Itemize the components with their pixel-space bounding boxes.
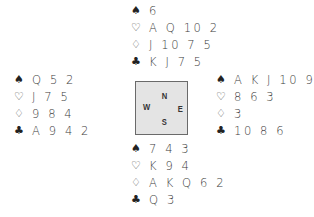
heart-outline-icon: ♡ — [216, 89, 230, 105]
west-hearts-cards: J 7 5 — [32, 89, 70, 105]
north-clubs-cards: K J 7 5 — [149, 54, 204, 70]
club-icon: ♣ — [14, 123, 28, 139]
west-clubs-cards: A 9 4 2 — [32, 123, 91, 139]
compass-west-label: W — [143, 101, 150, 112]
east-spades-cards: A K J 10 9 8 — [234, 72, 314, 88]
heart-outline-icon: ♡ — [14, 89, 28, 105]
spade-icon: ♠ — [14, 72, 28, 88]
heart-outline-icon: ♡ — [131, 20, 145, 36]
diamond-outline-icon: ♢ — [131, 175, 145, 191]
club-icon: ♣ — [216, 123, 230, 139]
north-diamonds-cards: J 10 7 5 — [149, 37, 213, 53]
spade-icon: ♠ — [131, 3, 145, 19]
compass-east-label: E — [178, 103, 183, 114]
diamond-outline-icon: ♢ — [216, 106, 230, 122]
south-hearts-cards: K 9 4 — [149, 158, 192, 174]
west-diamonds-cards: 9 8 4 — [32, 106, 74, 122]
compass-north-label: N — [162, 90, 168, 101]
spade-icon: ♠ — [216, 72, 230, 88]
south-diamonds-cards: A K Q 6 2 — [149, 175, 226, 191]
east-clubs-cards: 10 8 6 — [234, 123, 286, 139]
south-clubs-cards: Q 3 — [149, 192, 177, 208]
south-spades-cards: 7 4 3 — [149, 141, 191, 157]
compass-south-label: S — [162, 116, 167, 127]
compass-box: N W E S — [135, 81, 188, 135]
north-hearts-cards: A Q 10 2 — [149, 20, 220, 36]
club-icon: ♣ — [131, 54, 145, 70]
spade-icon: ♠ — [131, 141, 145, 157]
west-spades-cards: Q 5 2 — [32, 72, 76, 88]
diamond-outline-icon: ♢ — [131, 37, 145, 53]
east-hearts-cards: 8 6 3 — [234, 89, 276, 105]
diamond-outline-icon: ♢ — [14, 106, 28, 122]
north-spades-cards: 6 — [149, 3, 159, 19]
club-icon: ♣ — [131, 192, 145, 208]
heart-outline-icon: ♡ — [131, 158, 145, 174]
east-diamonds-cards: 3 — [234, 106, 244, 122]
